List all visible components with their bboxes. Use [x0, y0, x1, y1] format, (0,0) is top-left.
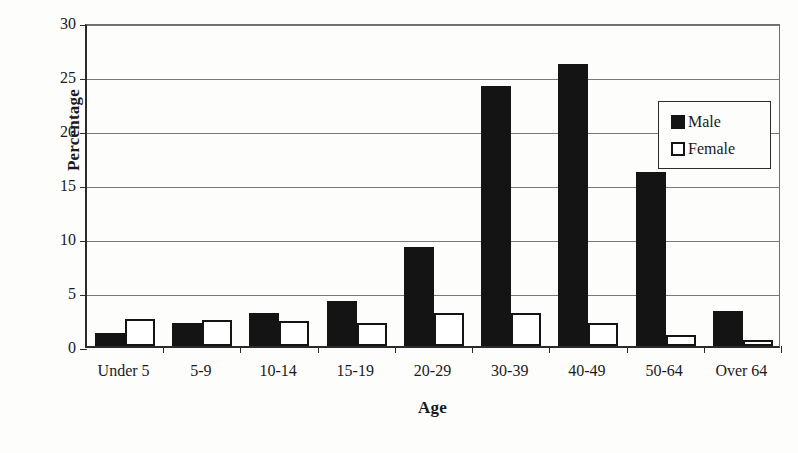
plot-area [85, 24, 780, 348]
bar-female [666, 335, 696, 346]
x-axis-tick-label: 5-9 [190, 362, 211, 380]
x-axis-tick-mark [549, 346, 550, 353]
x-axis-tick-mark [163, 346, 164, 353]
x-axis-tick-mark [627, 346, 628, 353]
bar-male [636, 172, 666, 346]
bar-chart-figure: Percentage 051015202530 Under 55-910-141… [0, 0, 798, 453]
y-axis-tick-label: 0 [36, 340, 76, 356]
y-axis-tick-labels: 051015202530 [28, 24, 76, 348]
bar-male [249, 313, 279, 346]
legend-item-male: Male [671, 108, 770, 135]
x-axis-tick-label: 30-39 [491, 362, 528, 380]
y-axis-tick-mark [80, 79, 87, 80]
x-axis-tick-label: 50-64 [645, 362, 682, 380]
x-axis-tick-mark [781, 346, 782, 353]
bar-male [327, 301, 357, 346]
legend-label-male: Male [688, 114, 721, 130]
bar-male [404, 247, 434, 346]
x-axis-title: Age [85, 398, 780, 418]
y-axis-tick-mark [80, 187, 87, 188]
bar-female [511, 313, 541, 346]
bar-group [705, 25, 782, 346]
y-axis-tick-label: 20 [36, 124, 76, 140]
y-axis-tick-mark [80, 25, 87, 26]
legend-label-female: Female [688, 141, 735, 157]
bar-female [588, 323, 618, 346]
bar-group [473, 25, 550, 346]
bar-female [125, 319, 155, 346]
y-axis-tick-mark [80, 295, 87, 296]
bar-group [396, 25, 473, 346]
y-axis-tick-mark [80, 349, 87, 350]
bar-group [319, 25, 396, 346]
y-axis-tick-mark [80, 241, 87, 242]
bar-male [713, 311, 743, 346]
x-axis-tick-mark [240, 346, 241, 353]
x-axis-tick-label: Under 5 [98, 362, 150, 380]
x-axis-tick-mark [318, 346, 319, 353]
bar-group [87, 25, 164, 346]
x-axis-tick-labels: Under 55-910-1415-1920-2930-3940-4950-64… [85, 362, 780, 386]
bar-group [550, 25, 627, 346]
bar-male [95, 333, 125, 346]
x-axis-tick-mark [704, 346, 705, 353]
bar-group [241, 25, 318, 346]
x-axis-tick-label: 40-49 [568, 362, 605, 380]
bar-female [434, 313, 464, 346]
x-axis-tick-mark [395, 346, 396, 353]
bar-group [164, 25, 241, 346]
bar-female [357, 323, 387, 346]
legend-item-female: Female [671, 135, 770, 162]
bar-female [202, 320, 232, 346]
bar-male [172, 323, 202, 346]
legend-swatch-male-icon [671, 115, 685, 129]
y-axis-tick-label: 30 [36, 16, 76, 32]
x-axis-tick-label: Over 64 [715, 362, 767, 380]
x-axis-tick-label: 10-14 [259, 362, 296, 380]
bar-group [628, 25, 705, 346]
x-axis-tick-label: 20-29 [414, 362, 451, 380]
y-axis-tick-label: 25 [36, 70, 76, 86]
legend-swatch-female-icon [671, 142, 685, 156]
bar-male [481, 86, 511, 346]
y-axis-tick-label: 10 [36, 232, 76, 248]
bar-male [558, 64, 588, 346]
x-axis-tick-label: 15-19 [337, 362, 374, 380]
bar-female [279, 321, 309, 346]
x-axis-tick-mark [472, 346, 473, 353]
y-axis-tick-label: 15 [36, 178, 76, 194]
bar-series-container [87, 25, 779, 346]
legend: Male Female [658, 101, 771, 169]
y-axis-tick-label: 5 [36, 286, 76, 302]
y-axis-tick-mark [80, 133, 87, 134]
bar-female [743, 340, 773, 346]
